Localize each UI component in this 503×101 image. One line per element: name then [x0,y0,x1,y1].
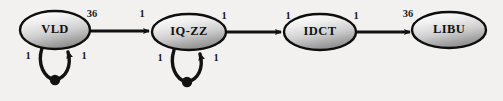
iqzz-loop-dot [182,77,192,87]
edge-label-vld-out: 36 [87,8,98,19]
node-libu-label: LIBU [433,22,465,36]
edge-label-idct-out: 1 [353,10,358,21]
node-libu[interactable]: LIBU [412,12,486,48]
edge-label-iqzz-loop-left: 1 [157,52,162,63]
diagram-canvas: VLD IQ-ZZ IDCT LIBU 36 1 1 1 1 1 1 1 1 3… [0,0,503,101]
node-idct-label: IDCT [304,24,337,38]
node-idct[interactable]: IDCT [284,14,356,50]
node-vld-label: VLD [41,22,69,36]
iqzz-self-loop [172,50,201,87]
edge-label-libu-in: 36 [403,8,414,19]
edge-label-idct-in: 1 [285,10,290,21]
diagram-svg: VLD IQ-ZZ IDCT LIBU 36 1 1 1 1 1 1 1 1 3… [0,0,503,101]
edge-label-vld-loop-right: 1 [81,50,86,61]
node-iqzz-label: IQ-ZZ [170,24,207,38]
edge-label-iqzz-loop-right: 1 [213,52,218,63]
edge-label-iqzz-in: 1 [139,8,144,19]
node-iqzz[interactable]: IQ-ZZ [152,14,226,50]
edge-label-vld-loop-left: 1 [25,50,30,61]
vld-loop-dot [50,75,60,85]
vld-self-loop [40,48,69,85]
node-vld[interactable]: VLD [20,11,90,49]
edge-label-iqzz-out: 1 [221,10,226,21]
